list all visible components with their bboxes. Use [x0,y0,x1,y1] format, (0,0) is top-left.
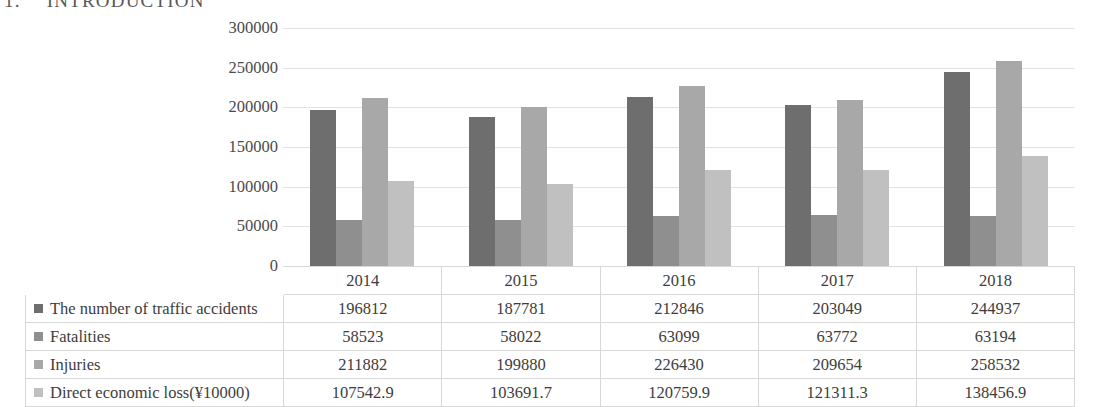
bar [863,170,889,266]
bar-group-2017 [758,28,916,266]
table-year-header: 2017 [758,267,916,295]
bar [996,61,1022,266]
table-value-cell: 107542.9 [284,379,442,407]
y-axis-tick-label: 100000 [183,177,278,197]
table-value-cell: 63772 [758,323,916,351]
table-value-cell: 203049 [758,295,916,323]
table-value-cell: 226430 [600,351,758,379]
table-row: Injuries211882199880226430209654258532 [26,351,1075,379]
series-name-text: Injuries [50,355,100,374]
legend-swatch-icon [34,388,43,397]
bar-group-2015 [441,28,599,266]
table-row: Fatalities5852358022630996377263194 [26,323,1075,351]
series-legend-label: Fatalities [26,323,284,351]
bar [653,216,679,266]
y-axis-tick-label: 50000 [183,216,278,236]
table-value-cell: 63099 [600,323,758,351]
series-legend-label: The number of traffic accidents [26,295,284,323]
legend-swatch-icon [34,360,43,369]
series-legend-label: Direct economic loss(¥10000) [26,379,284,407]
chart-data-table: 20142015201620172018The number of traffi… [25,266,1075,407]
table-value-cell: 58523 [284,323,442,351]
bar [705,170,731,266]
series-name-text: Fatalities [50,327,111,346]
table-body: 20142015201620172018The number of traffi… [26,267,1075,407]
y-axis-tick-label: 150000 [183,137,278,157]
bar [336,220,362,266]
bar-group-2018 [917,28,1075,266]
bar [495,220,521,266]
bar-group-2016 [600,28,758,266]
chart-plot-area [283,28,1075,266]
bar [944,72,970,266]
bar [362,98,388,266]
table-value-cell: 187781 [442,295,600,323]
table-value-cell: 103691.7 [442,379,600,407]
page-running-header: 1.INTRODUCTION [0,0,1109,14]
legend-swatch-icon [34,304,43,313]
table-value-cell: 258532 [916,351,1074,379]
table-value-cell: 138456.9 [916,379,1074,407]
bar [970,216,996,266]
table-value-cell: 58022 [442,323,600,351]
bar [837,100,863,266]
bar [811,215,837,266]
traffic-accident-figure: 050000100000150000200000250000300000 201… [0,18,1109,390]
y-axis-tick-label: 250000 [183,58,278,78]
bar [310,110,336,266]
table-row: The number of traffic accidents196812187… [26,295,1075,323]
table-year-header: 2015 [442,267,600,295]
table-corner-cell [26,267,284,295]
table-year-header: 2018 [916,267,1074,295]
page-header-title: INTRODUCTION [47,0,205,11]
series-name-text: The number of traffic accidents [50,299,258,318]
bar [627,97,653,266]
table-year-header: 2016 [600,267,758,295]
table-value-cell: 199880 [442,351,600,379]
y-axis-tick-label: 200000 [183,97,278,117]
y-axis-tick-label: 300000 [183,18,278,38]
series-legend-label: Injuries [26,351,284,379]
legend-swatch-icon [34,332,43,341]
table-header-row: 20142015201620172018 [26,267,1075,295]
table-value-cell: 121311.3 [758,379,916,407]
bars-layer [283,28,1075,266]
bar [469,117,495,266]
table-year-header: 2014 [284,267,442,295]
bar [785,105,811,266]
bar-group-2014 [283,28,441,266]
bar [547,184,573,266]
table-value-cell: 212846 [600,295,758,323]
table-value-cell: 196812 [284,295,442,323]
series-name-text: Direct economic loss(¥10000) [50,383,250,402]
table-value-cell: 120759.9 [600,379,758,407]
y-axis: 050000100000150000200000250000300000 [183,28,278,266]
table-value-cell: 63194 [916,323,1074,351]
table-row: Direct economic loss(¥10000)107542.91036… [26,379,1075,407]
bar [679,86,705,266]
table-value-cell: 244937 [916,295,1074,323]
table-value-cell: 211882 [284,351,442,379]
page-header-number: 1. [4,0,21,11]
bar [388,181,414,266]
bar [1022,156,1048,266]
table-value-cell: 209654 [758,351,916,379]
bar [521,107,547,266]
